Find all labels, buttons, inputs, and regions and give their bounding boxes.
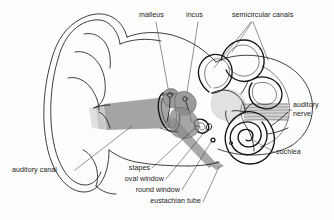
ear-anatomy-diagram: malleus incus semicircular canals audito… [0,0,334,220]
label-auditory-nerve-line1: auditory [293,101,319,109]
label-cochlea: cochlea [276,148,301,156]
label-malleus: malleus [139,11,164,19]
label-auditory-nerve-line2: nerve [293,110,311,118]
label-auditory-canal: auditory canal [12,166,57,174]
semicircular-canals-shape [198,40,281,121]
label-stapes: stapes [78,164,150,172]
label-semicircular-canals: semicircular canals [232,11,293,19]
label-incus: incus [186,11,203,19]
label-eustachian-tube: eustachian tube [78,197,201,205]
label-round-window: round window [78,186,180,194]
label-oval-window: oval window [78,175,164,183]
